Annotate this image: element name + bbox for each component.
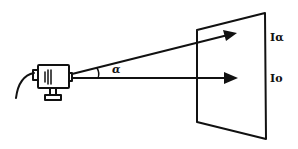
intensity-label-alpha: Iα xyxy=(270,31,284,44)
upper-ray-arrowhead-icon xyxy=(223,30,237,41)
source-body xyxy=(38,65,69,88)
intensity-label-zero: Io xyxy=(270,72,282,85)
angle-arc xyxy=(97,68,99,78)
center-ray-arrowhead-icon xyxy=(224,72,238,84)
upper-ray xyxy=(72,35,228,74)
angle-label: α xyxy=(112,63,121,76)
stand-base xyxy=(45,95,61,100)
power-cord xyxy=(16,73,34,98)
light-source-icon xyxy=(16,65,72,100)
optics-diagram: α Iα Io xyxy=(0,0,298,149)
